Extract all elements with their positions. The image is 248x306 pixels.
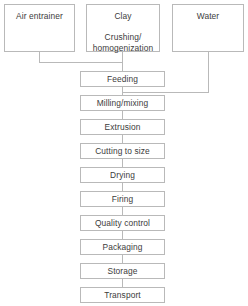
node-quality-control-label: Quality control <box>95 218 150 229</box>
node-storage-label: Storage <box>107 266 137 277</box>
node-transport-label: Transport <box>104 290 140 301</box>
node-drying[interactable]: Drying <box>80 167 165 183</box>
node-packaging-label: Packaging <box>102 242 142 253</box>
node-transport[interactable]: Transport <box>80 287 165 303</box>
node-extrusion[interactable]: Extrusion <box>80 119 165 135</box>
node-feeding-label: Feeding <box>107 74 138 85</box>
node-water[interactable]: Water <box>172 4 244 52</box>
node-drying-label: Drying <box>110 170 135 181</box>
node-milling-mixing-label: Milling/mixing <box>97 98 149 109</box>
node-cutting-to-size-label: Cutting to size <box>95 146 150 157</box>
node-water-label: Water <box>197 11 220 22</box>
node-quality-control[interactable]: Quality control <box>80 215 165 231</box>
node-clay-sublabel: Crushing/ homogenization <box>93 32 154 54</box>
node-storage[interactable]: Storage <box>80 263 165 279</box>
process-flow-diagram: Air entrainer Clay Crushing/ homogenizat… <box>0 0 248 306</box>
node-cutting-to-size[interactable]: Cutting to size <box>80 143 165 159</box>
node-firing[interactable]: Firing <box>80 191 165 207</box>
node-clay-sublabel-line-2: homogenization <box>93 43 154 54</box>
connector-air-entrainer-to-feeding <box>39 52 122 71</box>
node-clay-label: Clay <box>114 11 131 22</box>
node-firing-label: Firing <box>112 194 134 205</box>
node-clay-sublabel-line-1: Crushing/ <box>93 32 154 43</box>
node-packaging[interactable]: Packaging <box>80 239 165 255</box>
node-extrusion-label: Extrusion <box>105 122 141 133</box>
node-feeding[interactable]: Feeding <box>80 71 165 87</box>
node-clay[interactable]: Clay Crushing/ homogenization <box>86 4 160 52</box>
node-air-entrainer-label: Air entrainer <box>16 11 63 22</box>
node-air-entrainer[interactable]: Air entrainer <box>4 4 75 52</box>
node-milling-mixing[interactable]: Milling/mixing <box>80 95 165 111</box>
